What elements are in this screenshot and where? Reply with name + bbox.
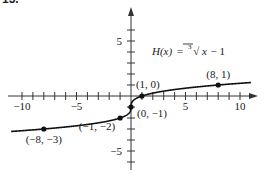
x-tick-label: 10 bbox=[235, 100, 247, 112]
x-tick-label: −5 bbox=[71, 100, 83, 112]
x-tick-label: 5 bbox=[183, 100, 189, 112]
data-point bbox=[216, 82, 221, 87]
point-label: (1, 0) bbox=[136, 78, 160, 91]
x-axis-arrow-icon bbox=[249, 93, 258, 99]
point-label: (−1, −2) bbox=[79, 120, 116, 133]
data-point bbox=[128, 104, 133, 109]
y-tick-label: −5 bbox=[110, 145, 122, 157]
data-point bbox=[41, 126, 46, 131]
y-tick-label: 5 bbox=[117, 35, 123, 47]
y-axis-arrow-icon bbox=[128, 7, 134, 16]
function-label: H(x) = 3 √ x − 1 bbox=[151, 39, 225, 58]
axes bbox=[8, 7, 258, 170]
point-label: (8, 1) bbox=[206, 68, 230, 81]
x-tick-label: −10 bbox=[13, 100, 31, 112]
point-label: (0, −1) bbox=[137, 107, 167, 120]
function-graph: −10−55105−5 (−8, −3)(−1, −2)(0, −1)(1, 0… bbox=[0, 0, 265, 175]
data-point bbox=[118, 115, 123, 120]
point-label: (−8, −3) bbox=[26, 133, 63, 146]
data-point bbox=[139, 93, 144, 98]
